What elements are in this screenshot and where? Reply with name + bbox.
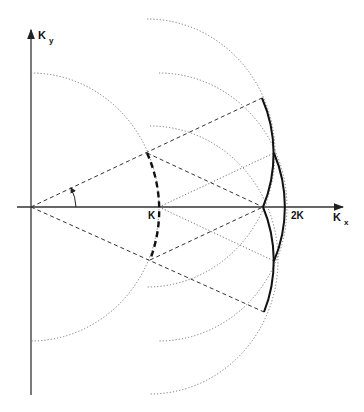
solid-arc-upper [262, 98, 274, 207]
ky-label-main: K [38, 29, 46, 41]
kx-label-sub: x [344, 218, 348, 227]
lower-to-node [150, 207, 263, 260]
k-point-label: K [148, 211, 155, 221]
kx-label-main: K [333, 211, 341, 223]
k-ray-upper [159, 153, 274, 207]
k-ray-lower [159, 207, 274, 261]
two-k-point-label: 2K [291, 211, 304, 221]
solid-arc-lower [263, 207, 274, 312]
kx-label: Kx [333, 212, 348, 223]
kspace-diagram [0, 0, 364, 412]
upper-to-node [147, 153, 263, 207]
ky-label-sub: y [49, 36, 53, 45]
lower-circle [150, 126, 278, 394]
angle-arc-icon [71, 188, 76, 207]
ky-label: Ky [38, 30, 53, 41]
origin-ray-upper [31, 98, 262, 207]
upper-circle [147, 19, 275, 287]
